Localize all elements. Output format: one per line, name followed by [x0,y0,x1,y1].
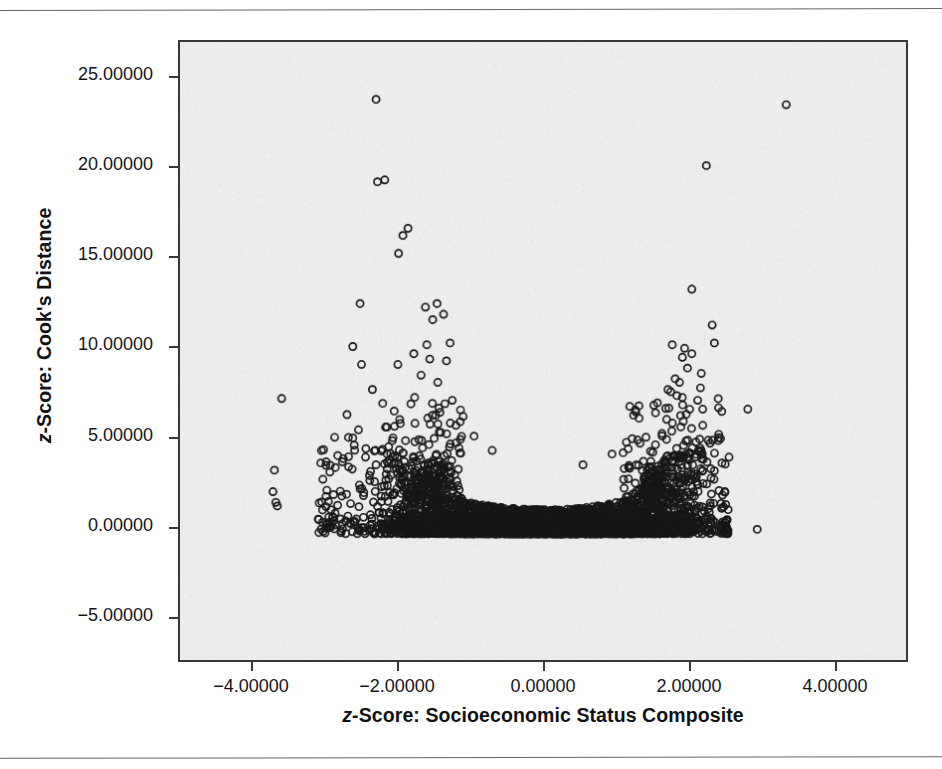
x-tick-label: −4.00000 [176,676,326,697]
x-tick-mark [543,662,545,671]
x-tick-mark [689,662,691,671]
y-tick-label: 10.00000 [3,334,153,355]
y-tick-mark [169,617,178,619]
x-tick-mark [397,662,399,671]
y-tick-mark [169,76,178,78]
scatter-plot-figure: z-Score: Cook's Distance z-Score: Socioe… [0,14,942,754]
y-tick-mark [169,166,178,168]
x-tick-label: 0.00000 [468,676,618,697]
x-tick-mark [835,662,837,671]
x-tick-label: 4.00000 [760,676,910,697]
figure-page: z-Score: Cook's Distance z-Score: Socioe… [0,0,942,769]
y-tick-label: 20.00000 [3,154,153,175]
y-tick-label: 0.00000 [3,515,153,536]
y-tick-mark [169,256,178,258]
x-tick-label: −2.00000 [322,676,472,697]
x-axis-title-rest: -Score: Socioeconomic Status Composite [352,704,744,726]
x-axis-title-lead: z [342,704,352,726]
page-rule-bottom [0,756,942,759]
x-tick-mark [251,662,253,671]
y-tick-label: 5.00000 [3,425,153,446]
y-tick-mark [169,527,178,529]
y-tick-mark [169,346,178,348]
plot-area [178,40,908,662]
x-axis-title: z-Score: Socioeconomic Status Composite [178,704,908,727]
y-tick-label: 25.00000 [3,64,153,85]
y-tick-mark [169,437,178,439]
x-tick-label: 2.00000 [614,676,764,697]
scatter-points-canvas [180,42,906,660]
y-tick-label: 15.00000 [3,244,153,265]
page-rule-top [0,8,942,11]
y-tick-label: −5.00000 [3,605,153,626]
y-axis-title-rest: -Score: Cook's Distance [33,208,55,434]
